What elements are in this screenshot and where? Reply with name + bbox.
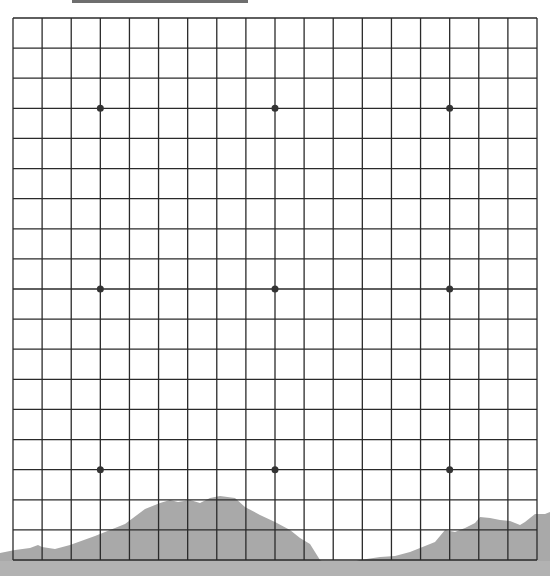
star-point[interactable]: [97, 286, 104, 293]
star-point[interactable]: [272, 466, 279, 473]
go-board[interactable]: [0, 0, 550, 576]
star-point[interactable]: [97, 466, 104, 473]
star-point[interactable]: [446, 105, 453, 112]
star-point[interactable]: [446, 286, 453, 293]
star-point[interactable]: [272, 105, 279, 112]
star-point[interactable]: [446, 466, 453, 473]
star-point[interactable]: [272, 286, 279, 293]
star-point[interactable]: [97, 105, 104, 112]
